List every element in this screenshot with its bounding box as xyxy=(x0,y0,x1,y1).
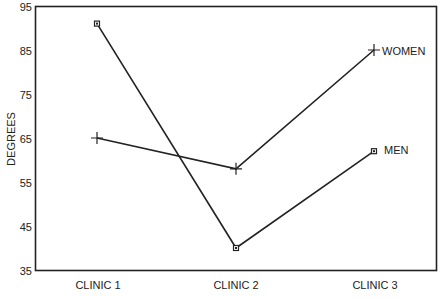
x-tick-clinic-2: CLINIC 2 xyxy=(213,279,258,291)
series-layer xyxy=(91,21,380,250)
y-tick: 55 xyxy=(20,177,32,189)
square-marker-dot xyxy=(373,150,375,152)
x-tick-clinic-3: CLINIC 3 xyxy=(352,279,397,291)
series-women xyxy=(91,44,380,175)
series-label-men: MEN xyxy=(384,144,409,156)
x-tick-clinic-1: CLINIC 1 xyxy=(75,279,120,291)
y-tick: 85 xyxy=(20,45,32,57)
y-tick: 75 xyxy=(20,89,32,101)
y-tick: 65 xyxy=(20,133,32,145)
y-axis-label: DEGREES xyxy=(5,112,17,166)
series-men xyxy=(95,21,377,250)
square-marker-dot xyxy=(235,247,237,249)
y-ticks: 95 85 75 65 55 45 35 xyxy=(20,1,32,277)
line-chart: DEGREES 95 85 75 65 55 45 35 CLINIC 1 CL… xyxy=(0,0,442,299)
series-line xyxy=(97,24,374,248)
plus-marker-icon xyxy=(91,132,103,144)
series-label-women: WOMEN xyxy=(382,45,425,57)
x-ticks: CLINIC 1 CLINIC 2 CLINIC 3 xyxy=(75,279,397,291)
y-tick: 95 xyxy=(20,1,32,13)
square-marker-dot xyxy=(96,23,98,25)
y-tick: 35 xyxy=(20,265,32,277)
series-line xyxy=(97,50,374,169)
y-tick: 45 xyxy=(20,221,32,233)
